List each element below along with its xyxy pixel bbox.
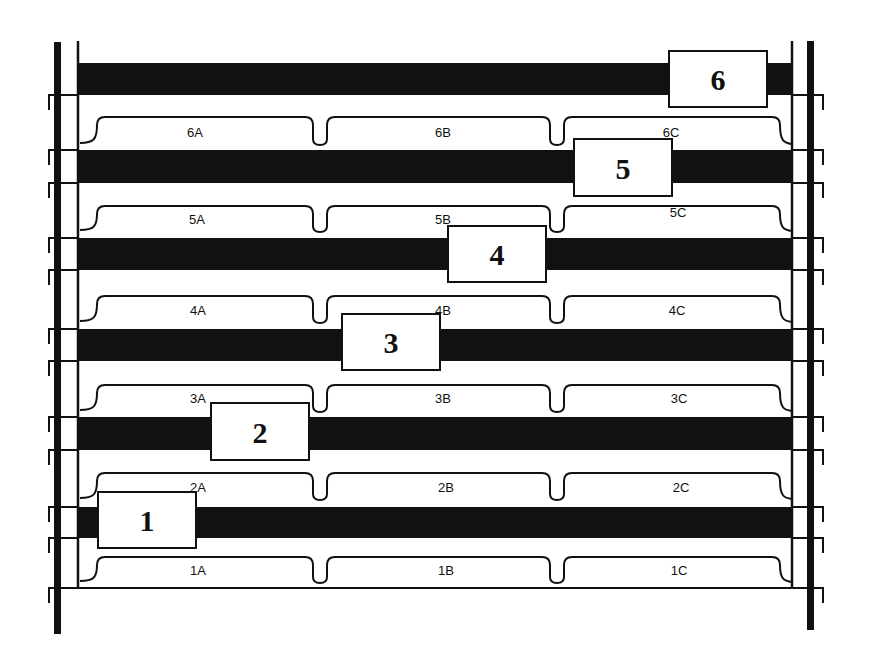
level-number: 4: [490, 238, 505, 271]
level-box-2: 2: [211, 403, 309, 460]
level-number: 2: [253, 416, 268, 449]
slot-label: 4A: [190, 303, 206, 318]
slot-label: 1C: [671, 563, 688, 578]
left-hook-icon: [49, 450, 78, 465]
level-box-4: 4: [448, 226, 546, 282]
level-number: 6: [711, 63, 726, 96]
slot-label: 4C: [669, 303, 686, 318]
slot-label: 6B: [435, 125, 451, 140]
left-upright-post: [54, 42, 61, 634]
left-hook-icon: [49, 183, 78, 198]
left-hook-icon: [49, 417, 78, 432]
slot-label: 5B: [435, 212, 451, 227]
right-upright-post: [807, 41, 814, 630]
slot-label: 1B: [438, 563, 454, 578]
level-number: 5: [616, 152, 631, 185]
level-box-5: 5: [574, 139, 672, 196]
left-hook-icon: [49, 270, 78, 285]
left-hook-icon: [49, 507, 78, 522]
rack-levels: 6A6B6C5A5B5C4A4B4C3A3B3C2A2B2C1A1B1C6543…: [78, 51, 792, 583]
slot-label: 1A: [190, 563, 206, 578]
slot-label: 2B: [438, 480, 454, 495]
left-hook-icon: [49, 95, 78, 110]
level-box-1: 1: [98, 492, 196, 548]
level-box-6: 6: [669, 51, 767, 107]
left-hook-icon: [49, 361, 78, 376]
level-5: 5A5B5C: [78, 150, 792, 232]
level-4: 4A4B4C: [78, 238, 792, 323]
left-hook-icon: [49, 329, 78, 344]
left-hook-icon: [49, 150, 78, 165]
level-number: 3: [384, 326, 399, 359]
level-2: 2A2B2C: [78, 417, 792, 500]
beam-bar-2: [78, 417, 792, 450]
slot-label: 3A: [190, 391, 206, 406]
slot-label: 6C: [663, 125, 680, 140]
left-hook-icon: [49, 538, 78, 553]
slot-label: 6A: [187, 125, 203, 140]
slot-label: 3C: [671, 391, 688, 406]
slot-label: 5A: [189, 212, 205, 227]
rack-diagram-canvas: 6A6B6C5A5B5C4A4B4C3A3B3C2A2B2C1A1B1C6543…: [0, 0, 869, 666]
slot-label: 2C: [673, 480, 690, 495]
level-number: 1: [140, 504, 155, 537]
beam-bar-4: [78, 238, 792, 270]
beam-bar-5: [78, 150, 792, 183]
left-hook-icon: [49, 588, 78, 603]
level-box-3: 3: [342, 314, 440, 370]
slot-label: 5C: [670, 205, 687, 220]
left-hook-icon: [49, 238, 78, 253]
slot-label: 3B: [435, 391, 451, 406]
